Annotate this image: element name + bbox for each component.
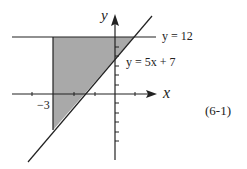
x-tick-label-minus-3: −3 <box>37 98 50 113</box>
equation-number: (6-1) <box>205 103 231 119</box>
horizontal-line-label: y = 12 <box>162 29 193 44</box>
slanted-line-label: y = 5x + 7 <box>126 55 176 70</box>
y-axis-label: y <box>101 7 108 24</box>
x-axis-label: x <box>163 84 170 102</box>
region-diagram <box>0 0 247 169</box>
